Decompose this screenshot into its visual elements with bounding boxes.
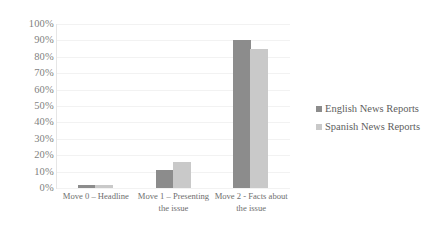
y-axis-tick-label: 20% [10, 150, 54, 161]
bar [156, 170, 174, 188]
bar-group [77, 24, 113, 188]
legend-label: Spanish News Reports [325, 122, 420, 133]
bar [173, 162, 191, 188]
bar-group [233, 24, 269, 188]
legend-swatch-icon [316, 106, 322, 112]
y-axis-tick-label: 60% [10, 84, 54, 95]
bar [78, 185, 96, 188]
plot-area [57, 24, 290, 188]
y-axis-tick-label: 100% [10, 19, 54, 30]
y-axis-tick-label: 10% [10, 166, 54, 177]
x-axis-tick-label: Move 2 - Facts about the issue [212, 191, 290, 214]
y-axis-tick-label: 90% [10, 35, 54, 46]
bar [250, 49, 268, 188]
chart-legend: English News ReportsSpanish News Reports [316, 104, 444, 139]
y-axis-tick-labels: 100%90%80%70%60%50%40%30%20%10%0% [6, 0, 54, 237]
y-axis-tick-label: 30% [10, 134, 54, 145]
y-axis-tick-label: 50% [10, 101, 54, 112]
bar-group [155, 24, 191, 188]
y-axis-tick-label: 70% [10, 68, 54, 79]
legend-label: English News Reports [325, 104, 419, 115]
y-axis-tick-label: 40% [10, 117, 54, 128]
bar-chart: 100%90%80%70%60%50%40%30%20%10%0% Move 0… [0, 0, 446, 237]
bars-layer [57, 24, 290, 188]
x-axis-tick-label: Move 0 – Headline [57, 191, 135, 203]
bar [233, 40, 251, 188]
legend-item: Spanish News Reports [316, 122, 444, 133]
bar [95, 185, 113, 188]
legend-item: English News Reports [316, 104, 444, 115]
gridline [57, 188, 290, 189]
y-axis-tick-label: 0% [10, 183, 54, 194]
legend-swatch-icon [316, 124, 322, 130]
x-axis-tick-label: Move 1 – Presenting the issue [135, 191, 213, 214]
y-axis-tick-label: 80% [10, 52, 54, 63]
x-axis-category-labels: Move 0 – HeadlineMove 1 – Presenting the… [57, 191, 290, 237]
